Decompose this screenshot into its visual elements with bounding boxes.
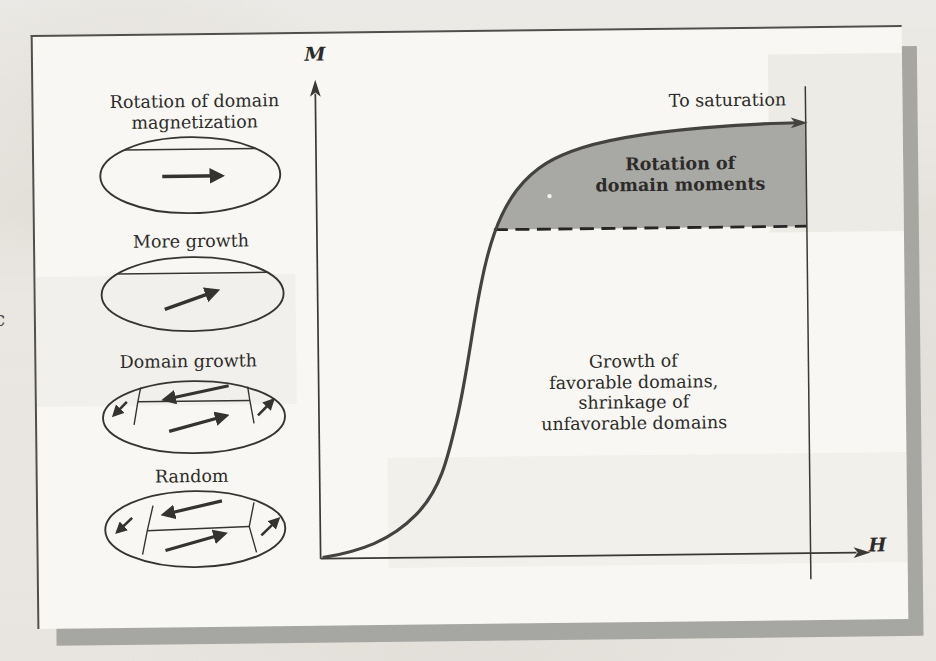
growth-region-label-line3: shrinkage of	[541, 391, 727, 414]
x-axis-label: H	[868, 535, 886, 554]
stage-label-rotation: Rotation of domain magnetization	[110, 90, 280, 133]
growth-region-label-line2: favorable domains,	[541, 371, 727, 394]
growth-region-label-line1: Growth of	[540, 350, 726, 373]
domain-ellipse-random	[105, 490, 286, 568]
saturation-annotation: To saturation	[669, 89, 787, 111]
growth-region-label-line4: unfavorable domains	[541, 412, 727, 435]
rotation-region-label-line2: domain moments	[595, 174, 765, 197]
rotation-region-label-line1: Rotation of	[595, 153, 765, 176]
domain-ellipse-rotation	[100, 136, 281, 214]
stage-label-domain-growth: Domain growth	[120, 350, 258, 372]
stage-label-more-growth: More growth	[133, 230, 249, 252]
m-axis	[310, 80, 326, 559]
stage-label-random: Random	[155, 466, 229, 487]
h-axis	[321, 547, 871, 564]
page-margin-text: c	[0, 309, 5, 330]
domain-ellipse-more-growth	[101, 256, 284, 332]
growth-region-label: Growth of favorable domains, shrinkage o…	[540, 350, 727, 434]
scanned-page: c	[0, 0, 936, 661]
y-axis-label: M	[304, 45, 325, 64]
saturation-vertical-line	[805, 86, 811, 579]
figure-panel: M H To saturation Rotation of domain mom…	[31, 25, 909, 629]
rotation-region-label: Rotation of domain moments	[595, 153, 765, 197]
domain-ellipse-domain-growth	[103, 380, 286, 454]
